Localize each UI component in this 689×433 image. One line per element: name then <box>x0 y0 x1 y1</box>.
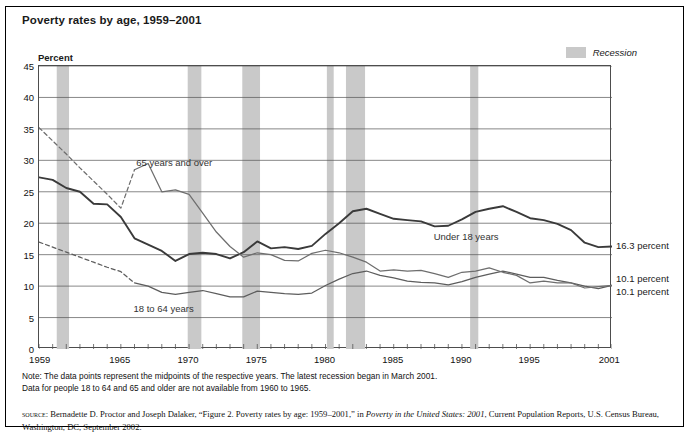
x-tick-label: 1975 <box>246 354 267 365</box>
x-tick-label: 1970 <box>177 354 198 365</box>
x-tick-label: 1985 <box>382 354 403 365</box>
series-annotation-adults: 18 to 64 years <box>134 303 194 314</box>
y-tick-label: 30 <box>12 155 34 166</box>
y-axis-label: Percent <box>38 52 73 63</box>
x-axis-ticks: 195919651970197519801985199019952001 <box>38 352 611 368</box>
x-tick-label: 1995 <box>519 354 540 365</box>
recession-band <box>57 66 69 349</box>
y-tick-label: 45 <box>12 61 34 72</box>
y-tick-label: 40 <box>12 92 34 103</box>
y-tick-label: 15 <box>12 249 34 260</box>
figure-container: Poverty rates by age, 1959–2001 Recessio… <box>0 0 689 433</box>
x-tick-label: 2001 <box>599 354 620 365</box>
recession-band <box>327 66 334 349</box>
plot-area: 65 years and over18 to 64 yearsUnder 18 … <box>38 65 611 348</box>
y-tick-label: 20 <box>12 218 34 229</box>
series-annotation-older: 65 years and over <box>136 157 212 168</box>
x-tick-label: 1965 <box>109 354 130 365</box>
source-citation: source: Bernadette D. Proctor and Joseph… <box>22 408 675 433</box>
series-line-under-18-years <box>39 177 612 261</box>
end-label: 10.1 percent <box>616 286 669 297</box>
source-prefix: source: <box>22 409 48 419</box>
recession-band <box>346 66 365 349</box>
note-line-2: Data for people 18 to 64 and 65 and olde… <box>22 383 437 395</box>
series-line-65-years-and-over <box>39 128 135 209</box>
source-italic-title: Poverty in the United States: 2001 <box>366 409 485 419</box>
chart-svg <box>39 66 612 349</box>
recession-band <box>470 66 478 349</box>
source-text-1: Bernadette D. Proctor and Joseph Dalaker… <box>48 409 366 419</box>
series-line-65-years-and-over <box>135 163 613 288</box>
series-line-18-to-64-years <box>135 271 613 297</box>
x-tick-label: 1980 <box>314 354 335 365</box>
plot-frame <box>38 65 611 348</box>
end-label: 10.1 percent <box>616 273 669 284</box>
end-value-labels: 16.3 percent10.1 percent10.1 percent <box>616 65 686 348</box>
y-tick-label: 0 <box>12 344 34 355</box>
x-tick-label: 1990 <box>450 354 471 365</box>
recession-band <box>242 66 260 349</box>
note-line-1: Note: The data points represent the midp… <box>22 371 437 383</box>
y-tick-label: 5 <box>12 312 34 323</box>
legend: Recession <box>566 47 637 58</box>
end-label: 16.3 percent <box>616 240 669 251</box>
series-annotation-children: Under 18 years <box>434 231 499 242</box>
chart-notes: Note: The data points represent the midp… <box>22 371 437 394</box>
y-tick-label: 10 <box>12 281 34 292</box>
x-tick-label: 1959 <box>29 354 50 365</box>
y-tick-label: 35 <box>12 123 34 134</box>
series-line-18-to-64-years <box>39 242 135 283</box>
y-axis-ticks: 051015202530354045 <box>12 65 34 348</box>
page-title: Poverty rates by age, 1959–2001 <box>22 14 202 26</box>
legend-label-recession: Recession <box>593 47 637 58</box>
y-tick-label: 25 <box>12 186 34 197</box>
recession-swatch-icon <box>566 47 586 58</box>
